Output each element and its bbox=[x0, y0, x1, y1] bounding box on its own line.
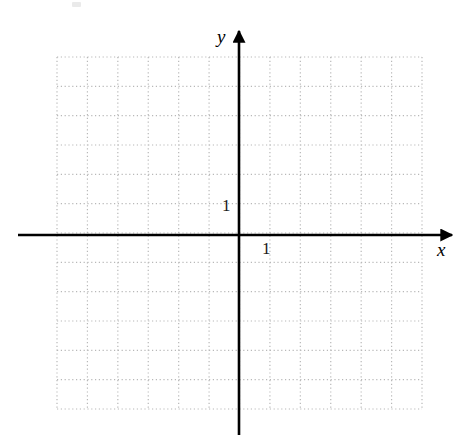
y-axis-label: y bbox=[217, 27, 225, 46]
coordinate-plane-figure: y x 1 1 bbox=[0, 0, 464, 440]
x-axis-label: x bbox=[437, 240, 445, 259]
x-axis-tick-label-one: 1 bbox=[262, 240, 271, 257]
coordinate-grid-svg bbox=[0, 0, 464, 440]
y-axis-tick-label-one: 1 bbox=[222, 197, 231, 214]
